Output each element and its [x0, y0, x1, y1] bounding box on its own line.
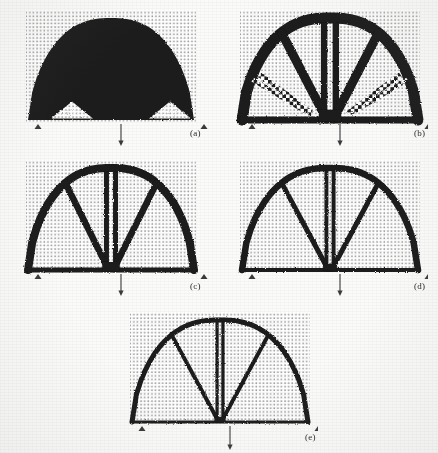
support-left	[139, 426, 146, 431]
design-domain-c	[18, 158, 208, 298]
support-left	[249, 124, 256, 129]
panel-label-e: (e)	[305, 432, 316, 442]
panel-c: (c)	[18, 158, 208, 298]
design-domain-a	[18, 8, 208, 148]
support-right	[315, 426, 319, 431]
support-left	[249, 274, 256, 279]
panel-label-c: (c)	[190, 281, 201, 291]
topology-optimization-figure: (a)(b)(c)(d)(e)	[0, 0, 438, 453]
load-arrow-head	[227, 445, 232, 451]
panel-a: (a)	[18, 8, 208, 148]
panel-label-d: (d)	[414, 281, 425, 291]
finite-element-mesh	[240, 160, 420, 272]
loaded-node-gusset	[319, 110, 342, 122]
support-right	[201, 274, 208, 279]
loaded-node-gusset	[102, 262, 120, 271]
load-arrow-head	[118, 291, 123, 297]
support-right	[201, 124, 208, 129]
load-arrow-head	[337, 291, 342, 297]
design-domain-e	[122, 310, 318, 453]
panel-label-b: (b)	[414, 128, 425, 138]
finite-element-mesh	[26, 160, 196, 272]
loaded-node-gusset	[323, 264, 337, 271]
loaded-node-gusset	[214, 417, 225, 423]
panel-e: (e)	[122, 310, 318, 453]
support-left	[35, 274, 42, 279]
design-domain-d	[232, 158, 428, 298]
panel-label-a: (a)	[190, 128, 201, 138]
support-right	[425, 274, 429, 279]
finite-element-mesh	[240, 10, 420, 122]
panel-d: (d)	[232, 158, 428, 298]
panel-b: (b)	[232, 8, 428, 148]
load-arrow-head	[118, 141, 123, 147]
load-arrow-head	[337, 141, 342, 147]
design-domain-b	[232, 8, 428, 148]
finite-element-mesh	[130, 312, 310, 424]
support-left	[35, 124, 42, 129]
